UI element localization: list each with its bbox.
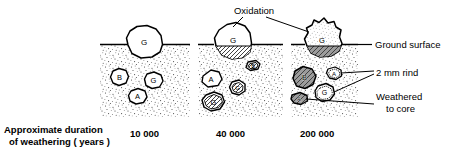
- clast-label-G-small: G: [235, 85, 240, 91]
- annotation-weathered-line1: Weathered: [376, 91, 422, 102]
- panel-40000: G B A G G 40 000: [198, 23, 283, 140]
- axis-caption-line2: of weathering ( years ): [9, 136, 110, 147]
- annotation-oxidation: Oxidation: [234, 5, 274, 16]
- clast-label-G: G: [319, 36, 325, 45]
- clast-label-A-lower: A: [297, 96, 301, 102]
- panel-200000: G B A G A 200 000: [291, 18, 358, 139]
- annotation-ground-surface: Ground surface: [375, 39, 440, 50]
- panel-duration-40000: 40 000: [216, 128, 245, 139]
- clast-label-A: A: [208, 75, 213, 84]
- clast-label-B: B: [302, 73, 307, 82]
- panel-duration-200000: 200 000: [300, 128, 334, 139]
- clast-label-G: G: [322, 89, 327, 96]
- clast-label-G: G: [211, 98, 217, 107]
- weathering-diagram: G B G A 10 000 G B A: [0, 0, 458, 157]
- clast-label-B: B: [251, 63, 255, 69]
- clast-label-G: G: [141, 38, 147, 47]
- panel-10000: G B G A 10 000: [100, 26, 190, 140]
- axis-caption-line1: Approximate duration: [4, 124, 103, 135]
- annotation-weathered-line2: to core: [386, 103, 415, 114]
- clast-label-G: G: [230, 36, 236, 45]
- leader-oxidation-right: [266, 17, 309, 32]
- clast-label-G2: G: [151, 76, 157, 85]
- panel-duration-10000: 10 000: [130, 128, 159, 139]
- annotation-rind: 2 mm rind: [376, 67, 418, 78]
- clast-label-A-upper: A: [332, 71, 336, 77]
- clast-label-B: B: [117, 73, 122, 82]
- clast-label-A: A: [135, 92, 140, 101]
